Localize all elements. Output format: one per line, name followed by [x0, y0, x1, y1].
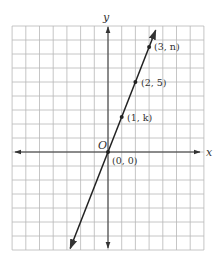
data-point: [147, 45, 151, 49]
point-label-1-k: (1, k): [127, 112, 152, 123]
point-label-3-n: (3, n): [154, 41, 180, 52]
data-point: [133, 80, 137, 84]
origin-label: O: [98, 139, 107, 152]
point-label-origin: (0, 0): [112, 155, 138, 166]
coordinate-plane: y x O (0, 0) (1, k) (2, 5) (3, n): [0, 0, 219, 262]
y-axis-label: y: [102, 11, 110, 24]
coordinate-plane-figure: y x O (0, 0) (1, k) (2, 5) (3, n): [0, 0, 219, 262]
data-point: [120, 115, 124, 119]
plotted-line: [70, 30, 155, 248]
point-label-2-5: (2, 5): [141, 77, 167, 88]
x-axis-label: x: [206, 146, 213, 159]
